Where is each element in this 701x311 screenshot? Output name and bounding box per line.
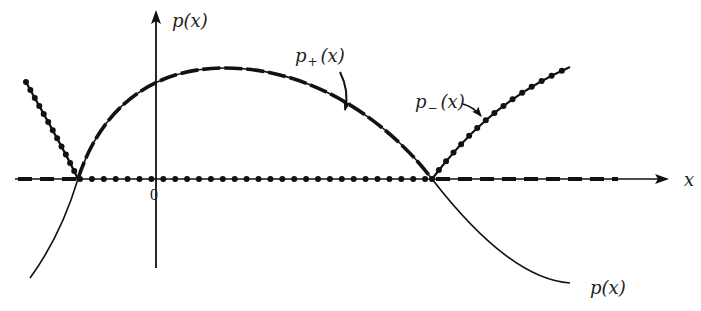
function-decomposition-diagram: p(x) x 0 p+(x) p−(x) p(x) bbox=[0, 0, 701, 311]
p-minus-pointer-arrow bbox=[463, 104, 481, 116]
y-axis-label: p(x) bbox=[172, 10, 208, 31]
p-plus-curve bbox=[78, 68, 432, 179]
p-curve bbox=[30, 68, 570, 283]
x-axis-label: x bbox=[684, 169, 694, 190]
p-plus-pointer-arrow bbox=[340, 72, 346, 110]
p-minus-right-branch bbox=[432, 67, 570, 179]
p-curve-label: p(x) bbox=[590, 277, 626, 298]
p-plus-label: p+(x) bbox=[295, 45, 345, 69]
p-minus-left-branch bbox=[26, 82, 78, 179]
origin-label: 0 bbox=[150, 186, 158, 203]
p-minus-label: p−(x) bbox=[415, 91, 465, 115]
